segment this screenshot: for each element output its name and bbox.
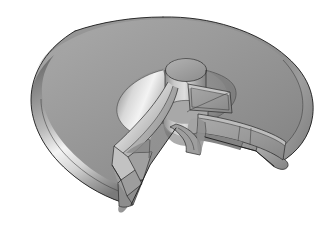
wedge-wall-right	[197, 118, 206, 155]
cad-model-drawing	[0, 0, 331, 228]
render-viewport	[0, 0, 331, 228]
